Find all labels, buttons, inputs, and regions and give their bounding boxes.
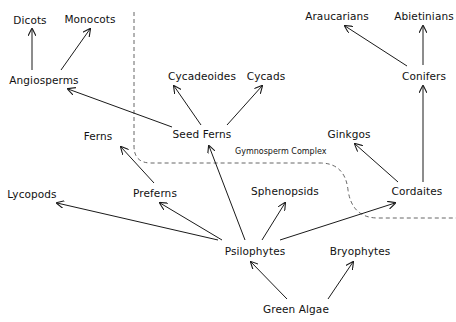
edge-green-algae-to-psilophytes (251, 262, 287, 299)
edges-layer (0, 0, 456, 322)
phylogeny-diagram: Gymnosperm Complex DicotsMonocotsAngiosp… (0, 0, 456, 322)
node-angiosperms: Angiosperms (9, 74, 78, 86)
edge-psilophytes-to-preferns (160, 203, 222, 240)
edge-green-algae-to-bryophytes (328, 262, 353, 299)
node-dicots: Dicots (13, 14, 46, 26)
node-abietinians: Abietinians (394, 10, 454, 22)
edge-psilophytes-to-seed-ferns (209, 146, 245, 240)
gymnosperm-complex-label: Gymnosperm Complex (235, 147, 326, 156)
node-conifers: Conifers (402, 70, 446, 82)
edge-angiosperms-to-monocots (61, 29, 90, 70)
node-monocots: Monocots (64, 13, 115, 25)
node-preferns: Preferns (133, 187, 177, 199)
node-cycadeoides: Cycadeoides (168, 70, 236, 82)
node-cycads: Cycads (247, 70, 286, 82)
edge-conifers-to-araucarians (345, 26, 407, 66)
edge-cordaites-to-ginkgos (355, 144, 398, 182)
node-araucarians: Araucarians (305, 10, 369, 22)
edge-preferns-to-ferns (121, 147, 154, 183)
edges-group (32, 26, 423, 299)
node-cordaites: Cordaites (392, 185, 443, 197)
edge-psilophytes-to-cordaites (280, 203, 395, 240)
edge-psilophytes-to-sphenopsids (262, 203, 285, 240)
edge-seed-ferns-to-cycadeoides (174, 86, 201, 125)
node-sphenopsids: Sphenopsids (251, 185, 319, 197)
node-ferns: Ferns (84, 130, 113, 142)
edge-seed-ferns-to-cycads (227, 86, 262, 125)
node-green-algae: Green Algae (263, 303, 329, 315)
node-lycopods: Lycopods (7, 188, 56, 200)
edge-seed-ferns-to-angiosperms (68, 89, 172, 127)
node-bryophytes: Bryophytes (330, 245, 391, 257)
node-seed-ferns: Seed Ferns (173, 128, 232, 140)
node-ginkgos: Ginkgos (327, 128, 370, 140)
node-psilophytes: Psilophytes (225, 245, 286, 257)
edge-psilophytes-to-lycopods (57, 203, 218, 240)
